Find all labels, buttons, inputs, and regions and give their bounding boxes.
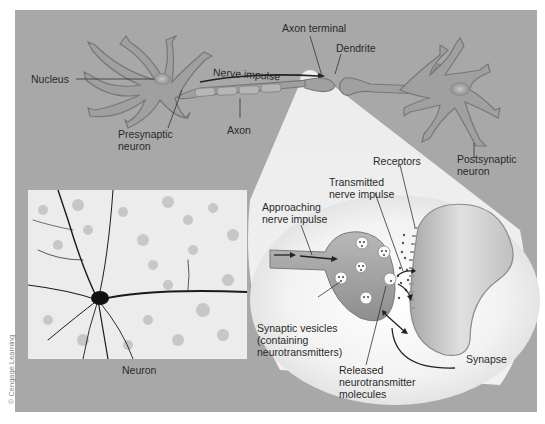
label-presynaptic-neuron: Presynaptic neuron: [118, 128, 173, 152]
nucleus-shape: [153, 73, 171, 85]
label-neuron-photo: Neuron: [122, 364, 156, 376]
label-dendrite: Dendrite: [336, 42, 376, 54]
label-transmitted-nerve-impulse: Transmitted nerve impulse: [329, 176, 394, 200]
neuron-micrograph: [28, 190, 247, 359]
label-approaching-nerve-impulse: Approaching nerve impulse: [262, 201, 327, 225]
copyright-credit: © Cengage Learning: [7, 335, 16, 405]
label-postsynaptic-neuron: Postsynaptic neuron: [457, 153, 517, 177]
label-released-neurotransmitter: Released neurotransmitter molecules: [339, 364, 415, 400]
postsynaptic-nucleus-shape: [450, 82, 470, 96]
label-axon-terminal: Axon terminal: [282, 22, 346, 34]
postsynaptic-neuron-shape: [400, 38, 500, 146]
label-axon: Axon: [227, 124, 251, 136]
label-synapse: Synapse: [466, 353, 507, 365]
label-receptors: Receptors: [373, 155, 421, 167]
label-synaptic-vesicles: Synaptic vesicles (containing neurotrans…: [257, 322, 342, 358]
label-nucleus: Nucleus: [31, 73, 69, 85]
